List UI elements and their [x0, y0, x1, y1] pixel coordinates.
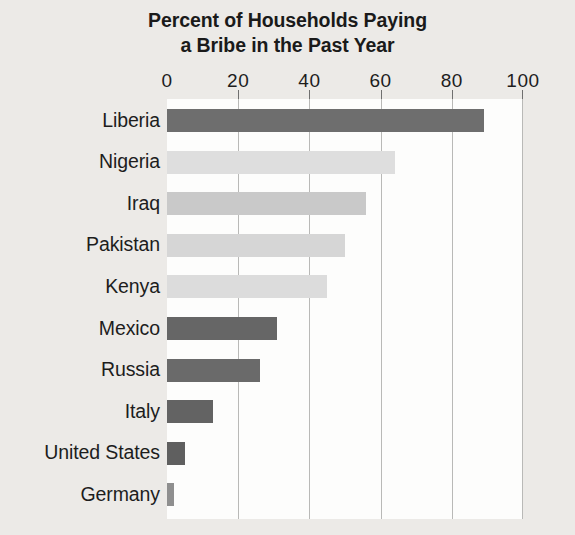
chart-title: Percent of Households Paying a Bribe in … — [0, 8, 575, 58]
x-tick-label-80: 80 — [441, 70, 463, 92]
axis-tick-mark-100 — [522, 90, 523, 99]
chart-title-line-1: Percent of Households Paying — [0, 8, 575, 33]
x-tick-label-20: 20 — [227, 70, 249, 92]
category-label-united-states: United States — [0, 441, 160, 464]
category-label-pakistan: Pakistan — [0, 233, 160, 256]
bar-iraq — [167, 192, 366, 215]
category-label-iraq: Iraq — [0, 192, 160, 215]
category-label-kenya: Kenya — [0, 275, 160, 298]
category-label-mexico: Mexico — [0, 317, 160, 340]
category-label-nigeria: Nigeria — [0, 150, 160, 173]
plot-area — [167, 99, 523, 519]
category-label-russia: Russia — [0, 358, 160, 381]
bar-russia — [167, 359, 260, 382]
bar-germany — [167, 483, 174, 506]
x-axis-tick-labels: 020406080100 — [0, 70, 575, 96]
x-tick-label-60: 60 — [369, 70, 391, 92]
x-tick-label-100: 100 — [506, 70, 540, 92]
bar-united-states — [167, 442, 185, 465]
bar-mexico — [167, 317, 277, 340]
category-label-italy: Italy — [0, 400, 160, 423]
axis-tick-mark-20 — [238, 90, 239, 99]
gridline-80 — [452, 99, 453, 519]
bar-italy — [167, 400, 213, 423]
bar-kenya — [167, 275, 327, 298]
bar-nigeria — [167, 151, 395, 174]
axis-tick-mark-60 — [381, 90, 382, 99]
category-label-germany: Germany — [0, 483, 160, 506]
bar-pakistan — [167, 234, 345, 257]
gridline-100 — [522, 99, 523, 519]
x-tick-label-40: 40 — [298, 70, 320, 92]
chart-title-line-2: a Bribe in the Past Year — [0, 33, 575, 58]
bar-chart-figure: Percent of Households Paying a Bribe in … — [0, 0, 575, 535]
axis-tick-mark-80 — [452, 90, 453, 99]
category-label-liberia: Liberia — [0, 109, 160, 132]
bar-liberia — [167, 109, 484, 132]
axis-tick-mark-40 — [309, 90, 310, 99]
y-axis-category-labels: LiberiaNigeriaIraqPakistanKenyaMexicoRus… — [0, 99, 160, 519]
x-tick-label-0: 0 — [161, 70, 172, 92]
